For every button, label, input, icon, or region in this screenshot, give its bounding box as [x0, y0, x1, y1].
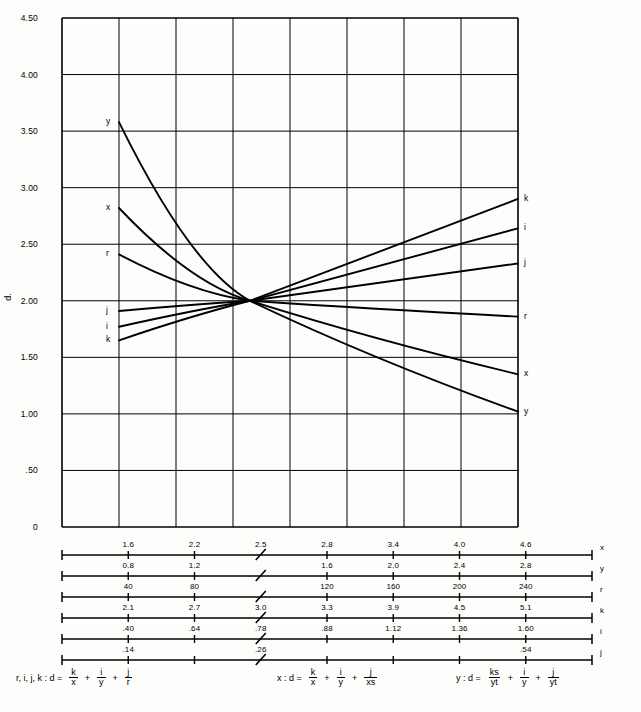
curve-label-left-k: k: [106, 334, 110, 344]
curve-label-right-x: x: [524, 368, 528, 378]
nomograph-page: d. 4.504.003.503.002.502.001.501.00.500 …: [0, 0, 641, 712]
scale-row-label-y: y: [600, 564, 604, 573]
scale-axis-r: [0, 582, 641, 603]
fraction-numerator: j: [125, 668, 131, 677]
scale-row-label-k: k: [600, 606, 604, 615]
fraction-denominator: x: [69, 677, 78, 687]
formula-operator: +: [508, 673, 513, 683]
formula-fraction: kx: [69, 668, 78, 688]
fraction-denominator: y: [337, 677, 346, 687]
formula-0: r, i, j, k : d =kx+iy+jr: [16, 668, 136, 688]
scale-axis-i: [0, 624, 641, 645]
fraction-numerator: k: [69, 668, 78, 677]
curve-label-left-y: y: [106, 116, 110, 126]
fraction-numerator: i: [338, 668, 344, 677]
curve-label-right-j: j: [524, 257, 526, 267]
formula-fraction: jyt: [548, 668, 559, 688]
formula-operator: +: [324, 673, 329, 683]
curve-label-right-i: i: [524, 222, 526, 232]
fraction-numerator: i: [98, 668, 104, 677]
chart-plot-area: d. 4.504.003.503.002.502.001.501.00.500 …: [0, 0, 641, 545]
scale-row-label-j: j: [600, 648, 602, 657]
fraction-numerator: j: [368, 668, 374, 677]
scale-row-x: 1.62.22.52.83.44.04.6x: [0, 540, 641, 561]
formula-operator: +: [536, 673, 541, 683]
formula-lead: r, i, j, k : d =: [16, 673, 62, 683]
scale-row-k: 2.12.73.03.33.94.55.1k: [0, 603, 641, 624]
chart-svg: [0, 0, 641, 545]
scale-row-label-x: x: [600, 543, 604, 552]
curve-label-right-k: k: [524, 193, 528, 203]
formula-fraction: iy: [520, 668, 529, 688]
formula-fraction: iy: [97, 668, 106, 688]
curve-label-left-i: i: [106, 321, 108, 331]
formula-fraction: ksyt: [488, 668, 501, 688]
formula-lead: x : d =: [277, 673, 302, 683]
fraction-denominator: y: [520, 677, 529, 687]
fraction-denominator: yt: [489, 677, 500, 687]
fraction-numerator: i: [521, 668, 527, 677]
curve-label-right-y: y: [524, 406, 528, 416]
curve-label-right-r: r: [524, 311, 527, 321]
curve-label-left-r: r: [106, 248, 109, 258]
scale-axis-k: [0, 603, 641, 624]
fraction-denominator: yt: [548, 677, 559, 687]
scale-bars: 1.62.22.52.83.44.04.6x0.81.21.62.02.42.8…: [0, 540, 641, 660]
scale-row-y: 0.81.21.62.02.42.8y: [0, 561, 641, 582]
formula-fraction: jxs: [364, 668, 377, 688]
formula-lead: y : d =: [456, 673, 481, 683]
curve-label-left-j: j: [106, 305, 108, 315]
fraction-denominator: xs: [364, 677, 377, 687]
formula-2: y : d =ksyt+iy+jyt: [456, 668, 563, 688]
scale-row-label-r: r: [600, 585, 603, 594]
scale-axis-x: [0, 540, 641, 561]
fraction-denominator: x: [309, 677, 318, 687]
fraction-numerator: ks: [488, 668, 501, 677]
fraction-denominator: y: [97, 677, 106, 687]
formula-fraction: jr: [125, 668, 132, 688]
formula-fraction: kx: [309, 668, 318, 688]
formula-row: r, i, j, k : d =kx+iy+jrx : d =kx+iy+jxs…: [0, 662, 641, 706]
fraction-numerator: k: [309, 668, 318, 677]
scale-row-r: 4080120160200240r: [0, 582, 641, 603]
formula-1: x : d =kx+iy+jxs: [277, 668, 381, 688]
formula-operator: +: [85, 673, 90, 683]
scale-row-label-i: i: [600, 627, 602, 636]
fraction-numerator: j: [550, 668, 556, 677]
formula-operator: +: [113, 673, 118, 683]
scale-row-i: .40.64.78.881.121.361.60i: [0, 624, 641, 645]
fraction-denominator: r: [125, 677, 132, 687]
formula-operator: +: [352, 673, 357, 683]
scale-axis-y: [0, 561, 641, 582]
formula-fraction: iy: [337, 668, 346, 688]
curve-label-left-x: x: [106, 202, 110, 212]
